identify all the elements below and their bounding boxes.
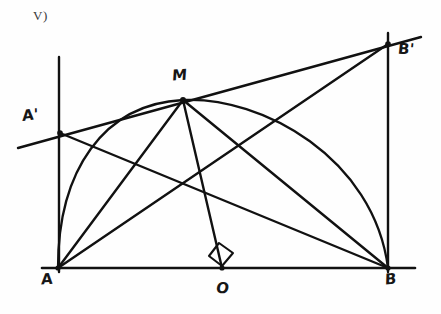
- point-label-b: B: [385, 271, 397, 287]
- semicircle-arc: [58, 100, 388, 268]
- vertex-dot-a: [55, 265, 60, 270]
- vertex-dot-a-prime: [57, 130, 63, 136]
- point-label-a: A: [41, 272, 53, 288]
- vertex-dot-m: [180, 97, 186, 103]
- geometry-figure: [0, 0, 441, 314]
- segment-a-to-b-prime: [58, 44, 388, 268]
- diagram-canvas: V) A' M B' A O B: [0, 0, 441, 314]
- segment-m-to-a: [58, 100, 183, 268]
- vertex-dot-o: [219, 265, 224, 270]
- segments-group: [18, 33, 421, 272]
- point-label-m: M: [171, 68, 187, 84]
- point-label-a-prime: A': [22, 107, 38, 124]
- vertex-dot-b-prime: [385, 41, 391, 47]
- point-label-b-prime: B': [397, 42, 415, 58]
- segment-m-to-o: [183, 100, 222, 268]
